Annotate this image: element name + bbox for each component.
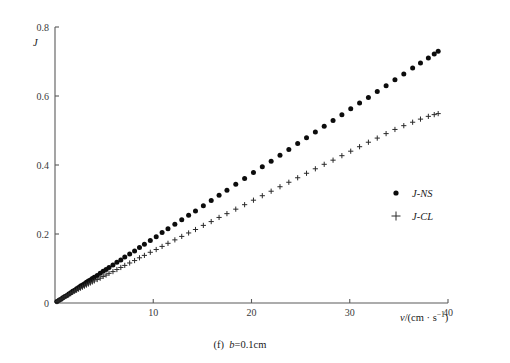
- data-point-j-cl: [313, 166, 318, 171]
- data-point-j-cl: [304, 171, 309, 176]
- data-point-j-cl: [410, 120, 415, 125]
- series-j-ns: [54, 49, 440, 304]
- data-point-j-cl: [137, 255, 142, 260]
- data-point-j-ns: [436, 49, 441, 54]
- data-point-j-ns: [142, 242, 147, 247]
- data-point-j-ns: [313, 129, 318, 134]
- data-point-j-cl: [348, 149, 353, 154]
- data-point-j-cl: [269, 189, 274, 194]
- x-axis-title-unit: /(cm · s: [405, 312, 437, 324]
- data-point-j-cl: [209, 219, 214, 224]
- data-point-j-cl: [127, 260, 132, 265]
- data-point-j-cl: [384, 131, 389, 136]
- data-point-j-ns: [251, 170, 256, 175]
- y-tick-label: 0.4: [37, 160, 50, 171]
- data-point-j-ns: [375, 89, 380, 94]
- axes-group: [55, 27, 448, 303]
- data-point-j-ns: [242, 176, 247, 181]
- data-point-j-ns: [392, 77, 397, 82]
- data-point-j-cl: [277, 184, 282, 189]
- y-axis-ticks: 00.20.40.60.8: [37, 22, 60, 309]
- data-point-j-ns: [209, 198, 214, 203]
- data-point-j-cl: [322, 162, 327, 167]
- data-point-j-ns: [410, 66, 415, 71]
- data-point-j-ns: [137, 245, 142, 250]
- legend: J-NS J-CL: [392, 188, 434, 222]
- data-point-j-ns: [172, 222, 177, 227]
- data-point-j-cl: [216, 215, 221, 220]
- data-point-j-cl: [224, 211, 229, 216]
- data-point-j-cl: [172, 237, 177, 242]
- data-point-j-ns: [331, 118, 336, 123]
- data-point-j-cl: [186, 230, 191, 235]
- data-point-j-cl: [251, 198, 256, 203]
- data-point-j-ns: [295, 141, 300, 146]
- data-point-j-cl: [339, 153, 344, 158]
- legend-label-j-cl: J-CL: [412, 211, 433, 222]
- data-point-j-ns: [418, 60, 423, 65]
- data-point-j-ns: [122, 255, 127, 260]
- data-point-j-cl: [154, 247, 159, 252]
- data-point-j-cl: [165, 241, 170, 246]
- data-point-j-ns: [269, 159, 274, 164]
- data-point-j-ns: [186, 213, 191, 218]
- series-j-cl: [54, 111, 440, 304]
- data-point-j-cl: [233, 207, 238, 212]
- chart-canvas: 10203040 00.20.40.60.8 J v/(cm · s−1) J-…: [0, 0, 510, 363]
- x-axis-title-exponent: −1: [437, 310, 445, 319]
- y-tick-label: 0.2: [37, 229, 50, 240]
- data-point-j-cl: [159, 244, 164, 249]
- data-point-j-cl: [295, 175, 300, 180]
- x-tick-label: 10: [148, 307, 158, 318]
- data-point-j-cl: [401, 123, 406, 128]
- data-point-j-ns: [384, 83, 389, 88]
- data-point-j-cl: [286, 180, 291, 185]
- y-tick-label: 0: [44, 298, 49, 309]
- x-axis-title-paren: ): [445, 312, 449, 324]
- data-point-j-ns: [304, 135, 309, 140]
- data-point-j-cl: [366, 140, 371, 145]
- data-point-j-ns: [366, 95, 371, 100]
- data-point-j-ns: [277, 153, 282, 158]
- data-point-j-ns: [154, 234, 159, 239]
- data-point-j-ns: [179, 217, 184, 222]
- x-tick-label: 30: [345, 307, 355, 318]
- data-point-j-ns: [193, 208, 198, 213]
- legend-label-j-ns: J-NS: [412, 188, 433, 199]
- legend-filled-circle-marker: [393, 190, 398, 195]
- data-point-j-ns: [148, 238, 153, 243]
- data-point-j-ns: [132, 248, 137, 253]
- data-point-j-cl: [148, 250, 153, 255]
- data-point-j-cl: [201, 223, 206, 228]
- data-point-j-ns: [401, 71, 406, 76]
- data-point-j-cl: [436, 111, 441, 116]
- data-point-j-ns: [233, 182, 238, 187]
- legend-plus-marker: [392, 212, 401, 221]
- data-point-j-ns: [286, 147, 291, 152]
- data-point-j-cl: [357, 144, 362, 149]
- data-point-j-ns: [357, 100, 362, 105]
- data-point-j-ns: [260, 164, 265, 169]
- data-point-j-ns: [426, 56, 431, 61]
- data-point-j-cl: [392, 127, 397, 132]
- y-axis-title: J: [33, 37, 39, 48]
- data-point-j-cl: [426, 114, 431, 119]
- data-point-j-cl: [418, 117, 423, 122]
- data-point-j-cl: [330, 158, 335, 163]
- data-point-j-ns: [339, 112, 344, 117]
- caption-index: (f): [214, 339, 225, 351]
- data-point-j-ns: [201, 203, 206, 208]
- y-tick-label: 0.8: [37, 22, 50, 33]
- y-tick-label: 0.6: [37, 91, 50, 102]
- caption-value: =0.1cm: [235, 339, 267, 350]
- data-point-j-cl: [260, 193, 265, 198]
- x-axis-title: v/(cm · s−1): [400, 310, 449, 325]
- figure-container: 10203040 00.20.40.60.8 J v/(cm · s−1) J-…: [0, 0, 510, 363]
- data-point-j-ns: [217, 193, 222, 198]
- data-point-j-ns: [165, 226, 170, 231]
- data-point-j-cl: [132, 258, 137, 263]
- data-point-j-cl: [242, 202, 247, 207]
- x-tick-label: 20: [247, 307, 257, 318]
- data-point-j-cl: [179, 234, 184, 239]
- data-point-j-ns: [160, 230, 165, 235]
